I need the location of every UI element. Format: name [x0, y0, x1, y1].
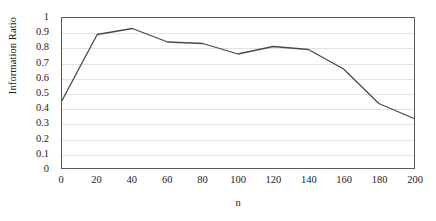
y-axis-tick-label: 0.9 — [36, 27, 49, 38]
x-axis-tick-label: 20 — [91, 175, 102, 186]
y-axis-tick-label: 0 — [44, 164, 49, 175]
x-axis-tick-label: 60 — [162, 175, 173, 186]
x-axis-tick-label: 200 — [407, 175, 423, 186]
x-axis-tick-label: 0 — [58, 175, 63, 186]
x-axis-tick-labels: 020406080100120140160180200 — [61, 175, 415, 189]
x-axis-tick-label: 100 — [230, 175, 246, 186]
y-axis-tick-label: 0.8 — [36, 42, 49, 53]
y-axis-tick-label: 0.6 — [36, 73, 49, 84]
x-axis-tick-label: 80 — [197, 175, 208, 186]
y-axis-tick-label: 0.4 — [36, 103, 49, 114]
y-axis-tick-label: 0.1 — [36, 149, 49, 160]
y-axis-tick-label: 0.2 — [36, 133, 49, 144]
information-ratio-chart: Information Ratio 00.10.20.30.40.50.60.7… — [0, 0, 436, 221]
y-axis-tick-labels: 00.10.20.30.40.50.60.70.80.91 — [0, 17, 55, 169]
y-axis-tick-label: 1 — [44, 12, 49, 23]
series-line-layer — [62, 18, 414, 168]
x-axis-tick-label: 160 — [336, 175, 352, 186]
x-axis-tick-label: 120 — [266, 175, 282, 186]
y-axis-tick-label: 0.3 — [36, 118, 49, 129]
x-axis-tick-label: 180 — [372, 175, 388, 186]
x-axis-title: n — [61, 197, 415, 208]
x-axis-tick-label: 40 — [127, 175, 138, 186]
series-line-information-ratio — [62, 29, 414, 119]
y-axis-tick-label: 0.5 — [36, 88, 49, 99]
x-axis-tick-label: 140 — [301, 175, 317, 186]
plot-area — [61, 17, 415, 169]
y-axis-tick-label: 0.7 — [36, 57, 49, 68]
